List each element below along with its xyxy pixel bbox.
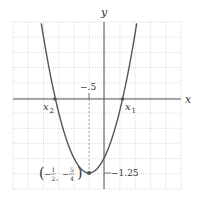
svg-text:x: x bbox=[43, 101, 49, 112]
root-label-x2: x 2 bbox=[43, 101, 54, 115]
x-axis-label: x bbox=[185, 93, 192, 106]
svg-text:2: 2 bbox=[52, 175, 56, 182]
svg-text:x: x bbox=[125, 101, 131, 112]
svg-text:−: − bbox=[44, 170, 51, 179]
svg-text:,: , bbox=[56, 173, 59, 182]
svg-text:1: 1 bbox=[52, 166, 56, 173]
x-tick-label: −.5 bbox=[80, 82, 96, 92]
parabola-chart: y x −.5 −1.25 x 2 x 1 ( − 1 2 , − 5 4 ) bbox=[0, 0, 204, 200]
svg-text:2: 2 bbox=[50, 107, 54, 115]
root-point-x1 bbox=[121, 97, 125, 101]
chart-svg: y x −.5 −1.25 x 2 x 1 ( − 1 2 , − 5 4 ) bbox=[0, 0, 204, 200]
svg-text:1: 1 bbox=[132, 107, 136, 115]
svg-text:−: − bbox=[62, 170, 69, 179]
root-point-x2 bbox=[53, 97, 57, 101]
svg-text:5: 5 bbox=[70, 166, 74, 173]
vertex-label: ( − 1 2 , − 5 4 ) bbox=[39, 164, 82, 182]
svg-text:4: 4 bbox=[70, 175, 74, 182]
y-axis-label: y bbox=[100, 6, 108, 19]
root-label-x1: x 1 bbox=[125, 101, 136, 115]
vertex-point bbox=[87, 171, 91, 175]
svg-text:): ) bbox=[77, 164, 82, 182]
y-tick-label: −1.25 bbox=[111, 168, 139, 178]
